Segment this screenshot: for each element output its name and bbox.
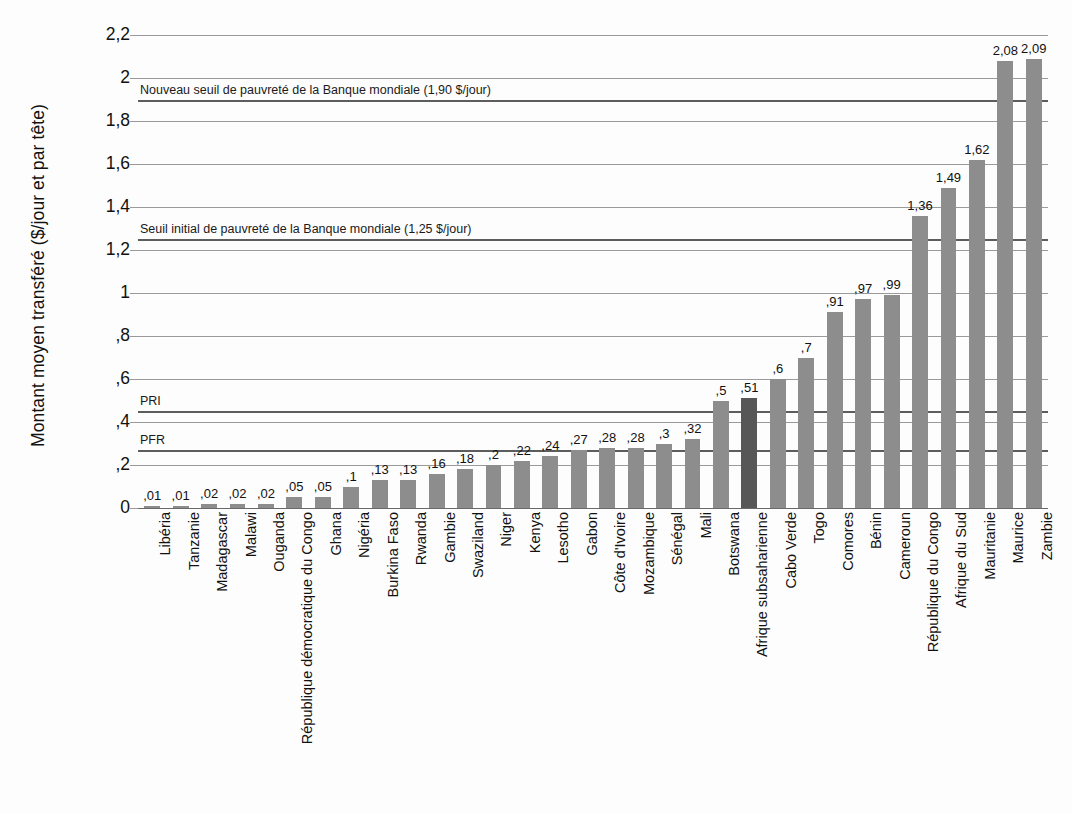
bar-value-label: ,91 <box>826 295 844 308</box>
x-category-label: République du Congo <box>926 512 941 652</box>
bar[interactable] <box>941 188 957 508</box>
y-tick-mark <box>130 207 138 208</box>
x-category-label: Sénégal <box>670 512 685 565</box>
y-tick-mark <box>130 250 138 251</box>
bar-column[interactable]: ,97 <box>855 35 871 508</box>
bar[interactable] <box>514 461 530 508</box>
bar-value-label: ,02 <box>257 487 275 500</box>
bar-column[interactable]: ,99 <box>884 35 900 508</box>
bar-column[interactable]: ,1 <box>343 35 359 508</box>
bar-value-label: ,32 <box>683 422 701 435</box>
y-tick-mark <box>130 422 138 423</box>
bar[interactable] <box>429 474 445 508</box>
bar[interactable] <box>798 358 814 509</box>
x-category-label: Botswana <box>727 512 742 576</box>
y-tick-label: ,4 <box>70 413 130 431</box>
bar[interactable] <box>173 506 189 508</box>
bar-column[interactable]: ,13 <box>372 35 388 508</box>
bar-value-label: ,13 <box>399 463 417 476</box>
x-category-label: Ouganda <box>272 512 287 572</box>
bar[interactable] <box>713 401 729 509</box>
x-category-label: Afrique subsaharienne <box>755 512 770 657</box>
bar-column[interactable]: ,05 <box>286 35 302 508</box>
x-category-label: Afrique du Sud <box>954 512 969 608</box>
bar[interactable] <box>1026 59 1042 508</box>
bar-column[interactable]: ,16 <box>429 35 445 508</box>
x-category-label: République démocratique du Congo <box>300 512 315 744</box>
bar[interactable] <box>855 299 871 508</box>
bar-column[interactable]: ,3 <box>656 35 672 508</box>
y-tick-label: 1,4 <box>70 198 130 216</box>
bar[interactable] <box>400 480 416 508</box>
bar[interactable] <box>912 216 928 508</box>
bar[interactable] <box>685 439 701 508</box>
bar-column[interactable]: ,13 <box>400 35 416 508</box>
bar-column[interactable]: ,6 <box>770 35 786 508</box>
bar-column[interactable]: ,2 <box>486 35 502 508</box>
bar[interactable] <box>997 61 1013 508</box>
bar-value-label: ,99 <box>883 278 901 291</box>
x-axis-category-labels: LibériaTanzanieMadagascarMalawiOugandaRé… <box>138 512 1048 742</box>
x-category-label: Libéria <box>158 512 173 556</box>
bar-value-label: ,2 <box>488 448 499 461</box>
bar[interactable] <box>144 506 160 508</box>
bar-column[interactable]: ,05 <box>315 35 331 508</box>
bar[interactable] <box>741 398 757 508</box>
bar[interactable] <box>827 312 843 508</box>
bar-value-label: ,27 <box>570 433 588 446</box>
bar-column[interactable]: ,02 <box>230 35 246 508</box>
bar-column[interactable]: ,51 <box>741 35 757 508</box>
bar-column[interactable]: 1,49 <box>941 35 957 508</box>
bar-column[interactable]: ,02 <box>201 35 217 508</box>
bar-column[interactable]: ,18 <box>457 35 473 508</box>
bar-column[interactable]: ,02 <box>258 35 274 508</box>
y-tick-label: 0 <box>70 499 130 517</box>
bar[interactable] <box>969 160 985 508</box>
bar-column[interactable]: ,5 <box>713 35 729 508</box>
bar-value-label: ,16 <box>428 457 446 470</box>
bar[interactable] <box>542 456 558 508</box>
bar-value-label: ,1 <box>346 470 357 483</box>
x-category-label: Mali <box>699 512 714 539</box>
bar-column[interactable]: 1,62 <box>969 35 985 508</box>
bar[interactable] <box>258 504 274 508</box>
bar-column[interactable]: ,7 <box>798 35 814 508</box>
bar[interactable] <box>628 448 644 508</box>
x-category-label: Maurice <box>1011 512 1026 564</box>
bar-value-label: 1,62 <box>964 143 989 156</box>
bar-column[interactable]: ,24 <box>542 35 558 508</box>
bar[interactable] <box>286 497 302 508</box>
bar-value-label: ,02 <box>228 487 246 500</box>
bar-column[interactable]: ,01 <box>173 35 189 508</box>
bar[interactable] <box>201 504 217 508</box>
bar[interactable] <box>770 379 786 508</box>
bar-column[interactable]: 2,09 <box>1026 35 1042 508</box>
bar-column[interactable]: 1,36 <box>912 35 928 508</box>
y-tick-mark <box>130 121 138 122</box>
chart-figure: Montant moyen transféré ($/jour et par t… <box>0 0 1072 813</box>
bar-column[interactable]: ,01 <box>144 35 160 508</box>
x-category-label: Mozambique <box>642 512 657 595</box>
bar-column[interactable]: ,32 <box>685 35 701 508</box>
bar[interactable] <box>372 480 388 508</box>
bar[interactable] <box>457 469 473 508</box>
bar[interactable] <box>343 487 359 509</box>
bar[interactable] <box>656 444 672 509</box>
y-tick-label: ,8 <box>70 327 130 345</box>
bar[interactable] <box>486 465 502 508</box>
bar-column[interactable]: ,28 <box>599 35 615 508</box>
bar-value-label: ,24 <box>541 439 559 452</box>
bar[interactable] <box>599 448 615 508</box>
x-category-label: Swaziland <box>471 512 486 578</box>
bar-value-label: ,5 <box>716 384 727 397</box>
bar-column[interactable]: ,27 <box>571 35 587 508</box>
bar[interactable] <box>571 450 587 508</box>
bar-column[interactable]: ,28 <box>628 35 644 508</box>
bar[interactable] <box>315 497 331 508</box>
bar-column[interactable]: ,22 <box>514 35 530 508</box>
bar[interactable] <box>230 504 246 508</box>
bar[interactable] <box>884 295 900 508</box>
y-tick-mark <box>130 508 138 509</box>
bar-column[interactable]: ,91 <box>827 35 843 508</box>
bar-column[interactable]: 2,08 <box>997 35 1013 508</box>
